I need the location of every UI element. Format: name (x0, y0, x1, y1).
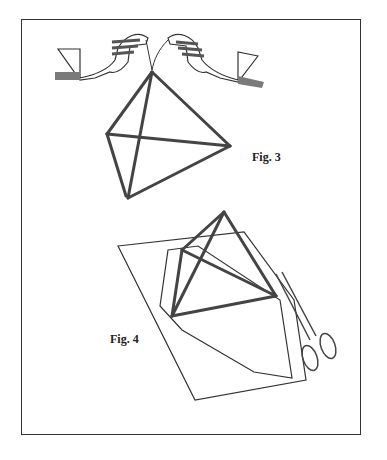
paper-sheet (118, 232, 306, 400)
fig4-label: Fig. 4 (110, 332, 139, 347)
scissors-icon (276, 272, 339, 373)
right-hand-icon (168, 34, 264, 88)
tetrahedron-fig4 (172, 212, 276, 316)
fig3-label: Fig. 3 (252, 150, 281, 165)
illustration (0, 0, 387, 460)
string (146, 40, 168, 70)
tetrahedron-fig3 (107, 72, 230, 198)
left-hand-icon (55, 34, 148, 80)
